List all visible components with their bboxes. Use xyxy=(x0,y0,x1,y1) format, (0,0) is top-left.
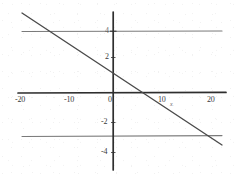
x-tick-label-neg10: -10 xyxy=(64,96,74,104)
y-tick-label-pos4: 4 xyxy=(105,27,109,35)
lower-horizontal-line xyxy=(22,136,222,137)
descending-line xyxy=(22,13,222,145)
y-tick-label-pos2: 2 xyxy=(105,53,109,61)
graph-figure: -20 -10 0 10 20 x 4 2 -2 -4 xyxy=(0,0,238,181)
x-axis-name-label: x xyxy=(170,101,173,107)
x-tick-label-zero: 0 xyxy=(108,96,112,104)
y-tick-label-neg4: -4 xyxy=(101,148,107,156)
upper-horizontal-line xyxy=(22,31,222,32)
x-tick-label-neg20: -20 xyxy=(15,96,25,104)
coordinate-plot xyxy=(0,0,238,181)
x-tick-label-pos20: 20 xyxy=(207,96,215,104)
x-tick-label-pos10: 10 xyxy=(158,96,166,104)
y-tick-label-neg2: -2 xyxy=(101,118,107,126)
x-axis xyxy=(18,92,226,93)
